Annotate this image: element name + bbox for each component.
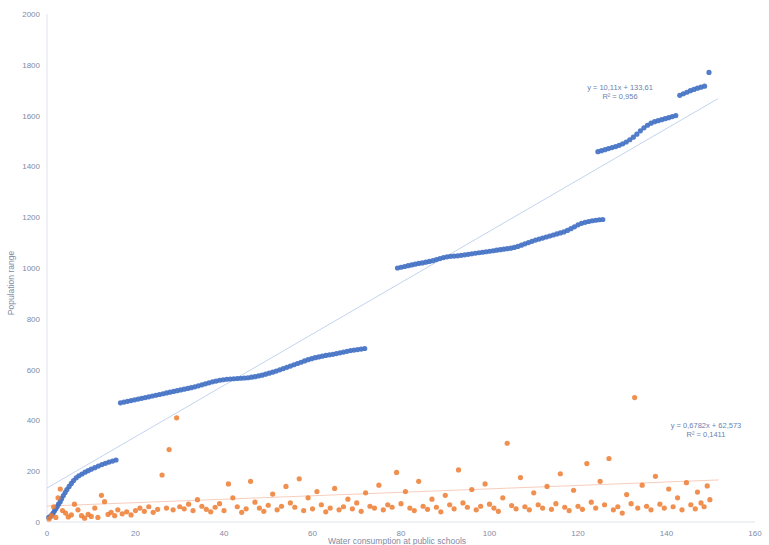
- data-point[interactable]: [666, 486, 671, 491]
- data-point[interactable]: [505, 441, 510, 446]
- data-point[interactable]: [693, 506, 698, 511]
- data-point[interactable]: [567, 508, 572, 513]
- data-point[interactable]: [113, 457, 118, 462]
- data-point[interactable]: [199, 504, 204, 509]
- data-point[interactable]: [540, 505, 545, 510]
- data-point[interactable]: [412, 508, 417, 513]
- data-point[interactable]: [226, 481, 231, 486]
- data-point[interactable]: [624, 492, 629, 497]
- data-point[interactable]: [72, 502, 77, 507]
- data-point[interactable]: [345, 497, 350, 502]
- data-point[interactable]: [589, 500, 594, 505]
- data-point[interactable]: [469, 487, 474, 492]
- data-point[interactable]: [394, 470, 399, 475]
- data-point[interactable]: [186, 502, 191, 507]
- data-point[interactable]: [600, 217, 605, 222]
- data-point[interactable]: [133, 508, 138, 513]
- data-point[interactable]: [359, 509, 364, 514]
- data-point[interactable]: [102, 499, 107, 504]
- data-point[interactable]: [580, 507, 585, 512]
- data-point[interactable]: [571, 488, 576, 493]
- data-point[interactable]: [182, 506, 187, 511]
- data-point[interactable]: [213, 505, 218, 510]
- data-point[interactable]: [527, 507, 532, 512]
- data-point[interactable]: [92, 505, 97, 510]
- data-point[interactable]: [124, 509, 129, 514]
- data-point[interactable]: [292, 505, 297, 510]
- data-point[interactable]: [217, 501, 222, 506]
- data-point[interactable]: [398, 501, 403, 506]
- data-point[interactable]: [553, 501, 558, 506]
- data-point[interactable]: [128, 512, 133, 517]
- data-point[interactable]: [536, 502, 541, 507]
- data-point[interactable]: [305, 495, 310, 500]
- data-point[interactable]: [593, 505, 598, 510]
- data-point[interactable]: [261, 509, 266, 514]
- data-point[interactable]: [513, 506, 518, 511]
- data-point[interactable]: [671, 504, 676, 509]
- data-point[interactable]: [174, 415, 179, 420]
- data-point[interactable]: [112, 513, 117, 518]
- data-point[interactable]: [204, 507, 209, 512]
- data-point[interactable]: [248, 479, 253, 484]
- data-point[interactable]: [460, 500, 465, 505]
- data-point[interactable]: [518, 475, 523, 480]
- data-point[interactable]: [611, 507, 616, 512]
- data-point[interactable]: [171, 507, 176, 512]
- data-point[interactable]: [221, 508, 226, 513]
- data-point[interactable]: [58, 486, 63, 491]
- data-point[interactable]: [443, 493, 448, 498]
- data-point[interactable]: [367, 504, 372, 509]
- data-point[interactable]: [195, 497, 200, 502]
- data-point[interactable]: [257, 505, 262, 510]
- data-point[interactable]: [146, 504, 151, 509]
- data-point[interactable]: [403, 489, 408, 494]
- data-point[interactable]: [438, 509, 443, 514]
- data-point[interactable]: [53, 515, 58, 520]
- data-point[interactable]: [657, 502, 662, 507]
- data-point[interactable]: [407, 505, 412, 510]
- data-point[interactable]: [177, 504, 182, 509]
- data-point[interactable]: [381, 507, 386, 512]
- data-point[interactable]: [500, 495, 505, 500]
- data-point[interactable]: [190, 508, 195, 513]
- data-point[interactable]: [679, 507, 684, 512]
- data-point[interactable]: [301, 508, 306, 513]
- data-point[interactable]: [702, 84, 707, 89]
- data-point[interactable]: [95, 515, 100, 520]
- data-point[interactable]: [279, 504, 284, 509]
- data-point[interactable]: [602, 502, 607, 507]
- data-point[interactable]: [167, 447, 172, 452]
- data-point[interactable]: [509, 503, 514, 508]
- data-point[interactable]: [558, 471, 563, 476]
- data-point[interactable]: [376, 483, 381, 488]
- data-point[interactable]: [332, 486, 337, 491]
- data-point[interactable]: [69, 512, 74, 517]
- data-point[interactable]: [562, 505, 567, 510]
- data-point[interactable]: [336, 507, 341, 512]
- data-point[interactable]: [288, 500, 293, 505]
- data-point[interactable]: [584, 461, 589, 466]
- data-point[interactable]: [155, 507, 160, 512]
- data-point[interactable]: [266, 503, 271, 508]
- data-point[interactable]: [99, 493, 104, 498]
- data-point[interactable]: [151, 510, 156, 515]
- data-point[interactable]: [244, 506, 249, 511]
- data-point[interactable]: [239, 510, 244, 515]
- data-point[interactable]: [615, 504, 620, 509]
- data-point[interactable]: [372, 505, 377, 510]
- data-point[interactable]: [416, 479, 421, 484]
- data-point[interactable]: [707, 497, 712, 502]
- data-point[interactable]: [706, 70, 711, 75]
- data-point[interactable]: [474, 507, 479, 512]
- data-point[interactable]: [49, 513, 54, 518]
- data-point[interactable]: [705, 483, 710, 488]
- data-point[interactable]: [235, 504, 240, 509]
- data-point[interactable]: [363, 490, 368, 495]
- data-point[interactable]: [230, 495, 235, 500]
- data-point[interactable]: [620, 511, 625, 516]
- data-point[interactable]: [164, 505, 169, 510]
- data-point[interactable]: [120, 511, 125, 516]
- data-point[interactable]: [55, 495, 60, 500]
- data-point[interactable]: [640, 483, 645, 488]
